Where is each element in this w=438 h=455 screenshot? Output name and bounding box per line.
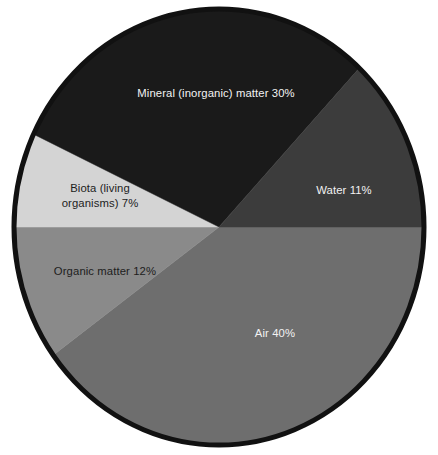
pie-chart-figure: Mineral (inorganic) matter 30% Water 11%…	[0, 0, 438, 455]
pie-chart-svg	[0, 0, 438, 455]
